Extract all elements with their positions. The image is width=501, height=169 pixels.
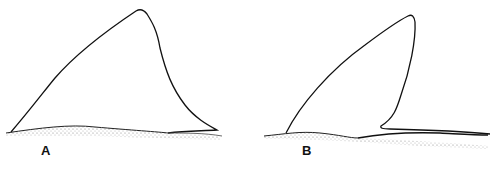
panel-a-fin [6,10,222,140]
fin-diagram [0,0,501,169]
panel-b-label: B [302,143,311,158]
panel-a-label: A [41,143,50,158]
panel-b-fin [264,15,490,149]
panel-a-fin-outline [11,10,217,133]
panel-b-free-rear-tip [358,133,488,138]
panel-b-fin-outline [286,15,490,134]
